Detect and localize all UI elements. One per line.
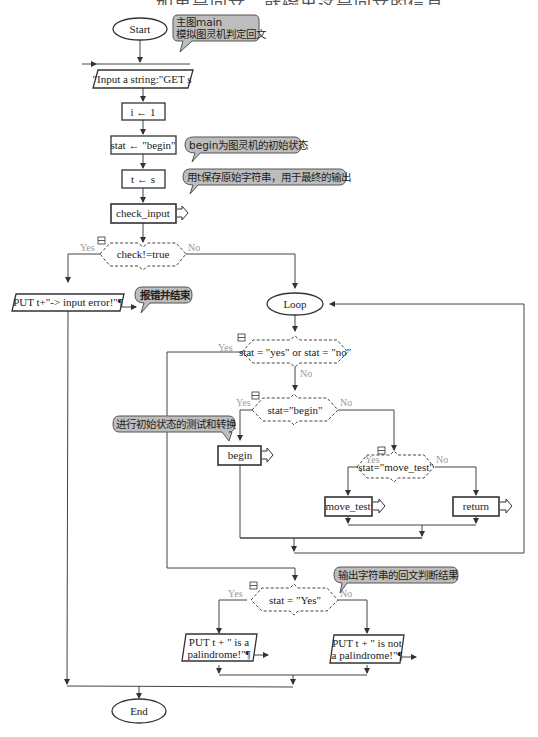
input-node[interactable]: "Input a string:"GET s [93, 70, 193, 88]
check-input-call[interactable]: check_input [111, 204, 188, 223]
subroutine-arrow-icon [177, 206, 188, 220]
end-terminal[interactable]: End [112, 699, 166, 723]
subroutine-arrow-icon [373, 499, 385, 513]
return-call-label: return [463, 500, 490, 512]
yes-label: Yes [228, 588, 243, 599]
loop-label: Loop [283, 298, 307, 310]
move-test-call[interactable]: move_test [325, 497, 385, 516]
comment-begin-state-text: begin为图灵机的初始状态 [189, 139, 309, 151]
subroutine-arrow-icon [262, 448, 273, 462]
begin-call-label: begin [228, 449, 253, 461]
put-no-line1: PUT t + " is not [332, 637, 401, 649]
no-label: No [340, 397, 352, 408]
comment-main: 主图main 模拟图灵机判定回文 [173, 15, 267, 52]
yes-label: Yes [218, 342, 233, 353]
no-label: No [436, 454, 448, 465]
assign-t-node[interactable]: t ← s [122, 170, 165, 188]
comment-error-end-text: 报错并结束 [140, 289, 191, 301]
assign-i-label: i ← 1 [130, 106, 155, 118]
loop-terminal[interactable]: Loop [267, 293, 323, 315]
assign-t-label: t ← s [131, 173, 155, 185]
decision-begin[interactable]: stat="begin" Yes No [236, 392, 352, 425]
decision-begin-label: stat="begin" [268, 404, 323, 416]
move-test-call-label: move_test [325, 500, 370, 512]
comment-error-end: 报错并结束 [135, 287, 192, 313]
put-yes-line2: palindrome!"¶ [187, 648, 250, 660]
put-error-node[interactable]: PUT t+"-> input error!"¶ [12, 294, 124, 311]
put-not-palindrome-node[interactable]: PUT t + " is not a palindrome!"¶ [330, 635, 404, 663]
decision-final[interactable]: stat = "Yes" Yes No [228, 582, 352, 615]
comment-output-result: 输出字符串的回文判断结果 [334, 567, 459, 593]
comment-main-line1: 主图main [176, 16, 222, 28]
put-no-line2: a palindrome!"¶ [332, 649, 403, 661]
assign-stat-node[interactable]: stat ← "begin" [110, 136, 176, 154]
put-yes-line1: PUT t + " is a [189, 636, 249, 648]
decision-stat-yes-no-label: stat = "yes" or stat = "no" [239, 346, 351, 358]
comment-save-t: 用t保存原始字符串，用于最终的输出 [183, 169, 351, 194]
decision-move-test[interactable]: stat="move_test" Yes No [357, 447, 448, 482]
begin-call[interactable]: begin [218, 446, 273, 465]
return-call[interactable]: return [453, 497, 512, 516]
start-label: Start [130, 23, 151, 35]
comment-main-line2: 模拟图灵机判定回文 [176, 28, 267, 40]
subroutine-arrow-icon [500, 499, 512, 513]
decision-check-label: check!=true [117, 248, 170, 260]
assign-stat-label: stat ← "begin" [110, 139, 175, 151]
put-error-label: PUT t+"-> input error!"¶ [13, 296, 123, 308]
input-label: "Input a string:"GET s [93, 73, 192, 85]
decision-stat-yes-no[interactable]: stat = "yes" or stat = "no" Yes No [218, 334, 351, 379]
check-input-label: check_input [116, 207, 170, 219]
yes-label: Yes [236, 397, 251, 408]
no-label: No [188, 242, 200, 253]
yes-label: Yes [80, 242, 95, 253]
start-terminal[interactable]: Start [113, 18, 167, 40]
comment-save-t-text: 用t保存原始字符串，用于最终的输出 [187, 171, 351, 183]
yes-label: Yes [365, 454, 380, 465]
comment-begin-state: begin为图灵机的初始状态 [185, 137, 309, 162]
decision-final-label: stat = "Yes" [269, 594, 321, 606]
assign-i-node[interactable]: i ← 1 [122, 103, 165, 120]
put-palindrome-node[interactable]: PUT t + " is a palindrome!"¶ [182, 634, 257, 661]
end-label: End [130, 705, 148, 717]
comment-begin-test-text: 进行初始状态的测试和转换 [116, 418, 237, 430]
no-label: No [300, 368, 312, 379]
comment-begin-test: 进行初始状态的测试和转换 [113, 416, 237, 441]
comment-output-result-text: 输出字符串的回文判断结果 [338, 569, 459, 581]
